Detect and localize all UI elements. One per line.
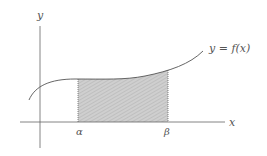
y-axis-label: y	[36, 9, 44, 22]
shaded-area	[78, 70, 168, 122]
alpha-label: α	[76, 126, 83, 137]
curve-label: y = f(x)	[208, 42, 250, 55]
beta-label: β	[163, 126, 170, 137]
x-axis-label: x	[229, 116, 236, 129]
integral-diagram: y x α β y = f(x)	[0, 0, 267, 156]
